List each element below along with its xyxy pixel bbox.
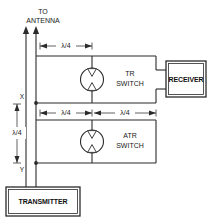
tr-switch-label-line2: SWITCH bbox=[116, 80, 144, 87]
tr-switch-label-line1: TR bbox=[125, 70, 134, 77]
receiver-box[interactable]: RECEIVER bbox=[166, 61, 206, 97]
transmitter-box[interactable]: TRANSMITTER bbox=[6, 187, 80, 216]
atr-switch-label-line2: SWITCH bbox=[116, 142, 144, 149]
node-y: Y bbox=[20, 161, 38, 173]
dimension-top-quarter-wave: λ/4 bbox=[40, 41, 92, 51]
atr-switch-label-line1: ATR bbox=[123, 132, 136, 139]
antenna-label-line1: TO bbox=[38, 8, 48, 15]
dimension-top-label: λ/4 bbox=[61, 42, 70, 49]
dimension-mid-left-quarter-wave: λ/4 bbox=[40, 108, 92, 118]
dimension-left-label: λ/4 bbox=[12, 129, 21, 136]
antenna-label-line2: ANTENNA bbox=[26, 17, 60, 24]
receiver-box-label: RECEIVER bbox=[169, 76, 204, 83]
node-x-label: X bbox=[20, 93, 25, 100]
node-x: X bbox=[20, 93, 38, 105]
duplexer-schematic: TO ANTENNA λ/4 bbox=[0, 0, 210, 223]
dimension-mid-right-quarter-wave: λ/4 bbox=[94, 108, 156, 118]
transmitter-box-label: TRANSMITTER bbox=[18, 198, 67, 205]
node-y-label: Y bbox=[20, 166, 25, 173]
tr-switch[interactable]: TR SWITCH bbox=[81, 68, 144, 91]
atr-switch[interactable]: ATR SWITCH bbox=[81, 130, 144, 153]
diagram-page: TO ANTENNA λ/4 bbox=[0, 0, 210, 223]
dimension-mid-right-label: λ/4 bbox=[120, 109, 129, 116]
antenna-feed-arrow-left bbox=[23, 26, 29, 187]
dimension-left-quarter-wave: λ/4 bbox=[8, 104, 26, 163]
dimension-mid-left-label: λ/4 bbox=[61, 109, 70, 116]
